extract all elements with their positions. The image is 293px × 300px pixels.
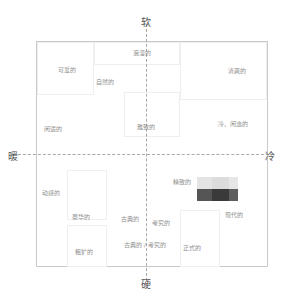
swatch-light-3 xyxy=(229,177,238,189)
grid-cell xyxy=(180,42,267,100)
swatch-row-dark xyxy=(197,189,238,201)
term-label: 可爱的 xyxy=(58,65,76,74)
swatch-light-1 xyxy=(197,177,212,189)
color-swatch-group xyxy=(197,177,238,201)
axis-label-soft: 软 xyxy=(141,14,151,29)
term-label: 雅致的 xyxy=(137,122,155,131)
term-label: 冷、闲逸的 xyxy=(218,119,248,128)
axis-label-hard: 硬 xyxy=(141,276,151,291)
swatch-dark-3 xyxy=(229,189,238,201)
swatch-dark-1 xyxy=(197,189,212,201)
term-label: 动感的 xyxy=(42,188,60,197)
term-label: 浪漫的 xyxy=(133,48,151,57)
grid-cell xyxy=(180,210,220,267)
term-label: 正式的 xyxy=(183,243,201,252)
grid-cell xyxy=(67,225,107,267)
term-label: 自然的 xyxy=(96,77,114,86)
swatch-dark-2 xyxy=(212,189,229,201)
term-label: 精致的 xyxy=(173,177,191,186)
axis-label-cool: 冷 xyxy=(265,148,275,163)
term-label: 古典的 xyxy=(121,214,139,223)
term-label: 闲适的 xyxy=(44,124,62,133)
term-label: 清爽的 xyxy=(228,66,246,75)
term-label: 考究的 xyxy=(152,218,170,227)
swatch-light-2 xyxy=(212,177,229,189)
axis-label-warm: 暖 xyxy=(8,148,18,163)
term-label: 粗犷的 xyxy=(75,247,93,256)
swatch-row-light xyxy=(197,177,238,189)
term-label: 现代的 xyxy=(225,210,243,219)
term-label: 古典的 / 考究的 xyxy=(124,240,166,249)
term-label: 豪华的 xyxy=(72,212,90,221)
